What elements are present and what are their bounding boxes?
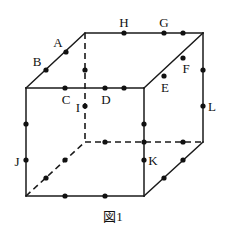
edge-dot-8 [180, 139, 185, 144]
edge-dot-10 [102, 193, 107, 198]
point-label-i: I [76, 101, 80, 114]
point-label-a: A [53, 36, 62, 49]
edge-dot-12 [62, 157, 67, 162]
solid-edges-group [26, 33, 203, 196]
point-label-f: F [182, 62, 189, 75]
figure-container: ABCDEFGHIJKL 図1 [0, 0, 227, 230]
point-dot-l [200, 103, 205, 108]
edge-dot-11 [43, 175, 48, 180]
point-dot-g [161, 30, 166, 35]
point-dot-j [23, 157, 28, 162]
point-dot-k [141, 157, 146, 162]
point-label-j: J [14, 155, 19, 168]
top-right-connector [144, 33, 203, 88]
hidden-bottom-left-connector [26, 142, 85, 196]
point-dot-e [161, 73, 166, 78]
edge-dot-9 [62, 193, 67, 198]
edge-dot-3 [200, 67, 205, 72]
point-dot-i [82, 103, 87, 108]
cube-diagram [0, 0, 227, 230]
bottom-right-connector [144, 142, 203, 196]
point-dot-h [121, 30, 126, 35]
point-label-e: E [161, 81, 169, 94]
figure-caption: 図1 [103, 210, 123, 223]
edge-dot-7 [141, 139, 146, 144]
edge-dot-4 [23, 121, 28, 126]
edge-dot-13 [161, 175, 166, 180]
edge-dot-1 [121, 85, 126, 90]
point-label-c: C [62, 93, 71, 106]
edge-dot-5 [141, 121, 146, 126]
point-label-h: H [119, 16, 128, 29]
edge-dot-0 [82, 67, 87, 72]
point-label-l: L [208, 100, 216, 113]
point-dot-b [43, 67, 48, 72]
point-label-b: B [33, 55, 42, 68]
edge-dot-14 [180, 157, 185, 162]
point-label-g: G [159, 16, 168, 29]
point-dot-c [62, 85, 67, 90]
point-label-k: K [148, 154, 157, 167]
point-dot-a [63, 49, 68, 54]
point-label-d: D [101, 93, 110, 106]
edge-dot-6 [102, 139, 107, 144]
edge-dot-2 [180, 30, 185, 35]
point-dot-d [102, 85, 107, 90]
